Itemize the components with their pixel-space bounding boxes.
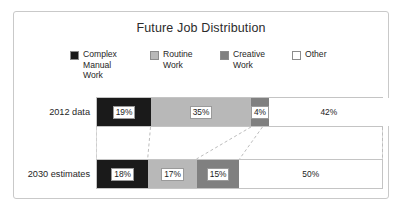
bar-segment-other[interactable]: 42% (269, 98, 389, 126)
chart-frame: Future Job Distribution Complex Manual W… (13, 11, 389, 199)
mid-band-divider (96, 127, 383, 159)
chart-legend: Complex Manual Work Routine Work Creativ… (70, 49, 370, 93)
bar-segment-creative-work[interactable]: 4% (251, 98, 269, 126)
legend-item-label: Routine Work (163, 49, 193, 70)
legend-item-label: Other (305, 49, 327, 60)
legend-swatch-icon-other (292, 51, 301, 60)
bar-segment-complex-manual-work[interactable]: 18% (97, 160, 148, 188)
bar-segment-value: 42% (320, 107, 337, 118)
legend-swatch-icon-complex-manual-work (70, 51, 79, 60)
table-row: 18%17%15%50% (96, 159, 383, 189)
row-label-2012-data: 2012 data (0, 107, 90, 117)
bar-segment-creative-work[interactable]: 15% (197, 160, 240, 188)
chart-plot-area: 2012 data 2030 estimates 19%35%4%42% 18%… (96, 97, 383, 189)
table-row: 19%35%4%42% (96, 97, 383, 127)
legend-swatch-icon-routine-work (150, 51, 159, 60)
row-label-2030-estimates: 2030 estimates (0, 169, 90, 179)
bar-segment-complex-manual-work[interactable]: 19% (97, 98, 151, 126)
bar-segment-routine-work[interactable]: 17% (148, 160, 196, 188)
legend-item-creative-work[interactable]: Creative Work (220, 49, 286, 70)
legend-item-label: Creative Work (233, 49, 265, 70)
page-title: Future Job Distribution (14, 21, 388, 35)
legend-item-label: Complex Manual Work (83, 49, 117, 81)
legend-item-complex-manual-work[interactable]: Complex Manual Work (70, 49, 142, 81)
bar-segment-value: 4% (251, 106, 269, 119)
bar-segment-value: 17% (161, 168, 184, 181)
legend-item-other[interactable]: Other (292, 49, 352, 60)
bar-segment-value: 35% (190, 106, 213, 119)
bar-segment-value: 15% (207, 168, 230, 181)
bar-segment-value: 50% (302, 169, 319, 180)
bar-segment-value: 19% (113, 106, 136, 119)
legend-item-routine-work[interactable]: Routine Work (150, 49, 216, 70)
bar-segment-other[interactable]: 50% (239, 160, 382, 188)
bar-segment-routine-work[interactable]: 35% (151, 98, 251, 126)
legend-swatch-icon-creative-work (220, 51, 229, 60)
bar-segment-value: 18% (111, 168, 134, 181)
